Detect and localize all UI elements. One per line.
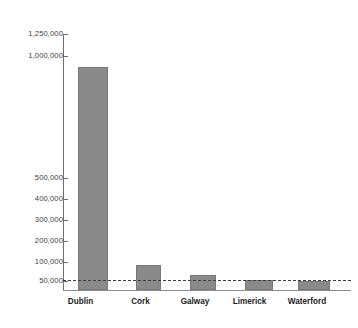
bar-dublin [78, 67, 108, 290]
y-axis-tick-label: 1,000,000 [5, 52, 63, 60]
y-axis-tick-label: 200,000 [5, 237, 63, 245]
y-axis-tick-label: 300,000 [5, 216, 63, 224]
y-axis-tick-label: 1,250,000 [5, 30, 63, 38]
y-axis-tick-label: 100,000 [5, 258, 63, 266]
y-axis-tick: 500,000 [0, 174, 63, 182]
y-axis-tick: 50,000 [0, 277, 63, 285]
x-axis-label-limerick: Limerick [225, 297, 274, 307]
bar-galway [190, 275, 216, 290]
x-axis-label-dublin: Dublin [58, 297, 103, 307]
y-axis-tick-label: 500,000 [5, 174, 63, 182]
y-axis-tick: 400,000 [0, 195, 63, 203]
y-axis-tick: 200,000 [0, 237, 63, 245]
y-axis-tick: 1,250,000 [0, 30, 63, 38]
bar-waterford [298, 281, 330, 290]
bar-limerick [245, 280, 273, 290]
y-axis-tick: 300,000 [0, 216, 63, 224]
y-axis-tick-label: 50,000 [5, 277, 63, 285]
bar-chart: 1,250,000 1,000,000 500,000 400,000 300,… [0, 0, 358, 328]
y-axis-tick: 100,000 [0, 258, 63, 266]
x-axis-line [63, 290, 351, 291]
x-axis-label-waterford: Waterford [280, 297, 334, 307]
y-axis-tick: 1,000,000 [0, 52, 63, 60]
x-axis-label-cork: Cork [118, 297, 163, 307]
y-axis-tick-label: 400,000 [5, 195, 63, 203]
x-axis-label-galway: Galway [172, 297, 218, 307]
plot-area [63, 34, 351, 290]
reference-line-50000 [63, 280, 351, 281]
bar-cork [136, 265, 161, 290]
